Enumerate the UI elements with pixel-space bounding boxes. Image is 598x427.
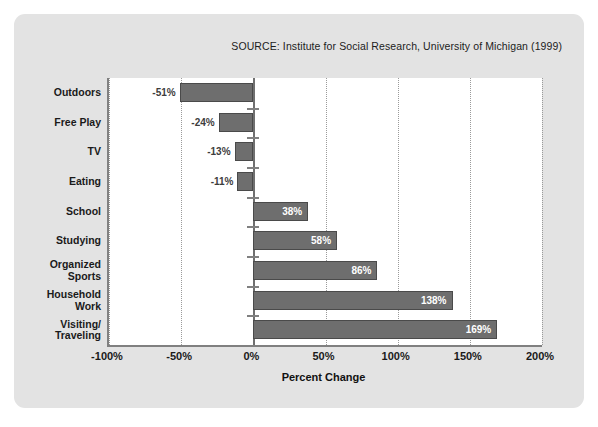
bar-row: -13% <box>109 137 542 167</box>
x-tick-label: 100% <box>382 350 410 362</box>
bar[interactable] <box>219 113 254 132</box>
bar-series: -51%-24%-13%-11%38%58%86%138%169% <box>109 78 542 345</box>
bar-value-label: 38% <box>266 203 302 220</box>
category-label-line: Sports <box>25 271 101 283</box>
category-tick <box>247 197 259 199</box>
category-label: School <box>25 206 101 218</box>
bar[interactable] <box>237 172 253 191</box>
category-label-line: Free Play <box>25 117 101 129</box>
bar-row: 138% <box>109 286 542 316</box>
category-label-line: School <box>25 206 101 218</box>
bar-row: -24% <box>109 108 542 138</box>
category-tick <box>247 108 259 110</box>
bar-value-label: 86% <box>335 262 371 279</box>
category-label: HouseholdWork <box>25 289 101 312</box>
bar-value-label: -13% <box>201 143 231 160</box>
category-label-line: TV <box>25 146 101 158</box>
bar[interactable] <box>235 142 254 161</box>
category-tick <box>247 286 259 288</box>
category-label-line: Eating <box>25 176 101 188</box>
category-label-line: Work <box>25 301 101 313</box>
category-label-line: Outdoors <box>25 87 101 99</box>
category-tick <box>247 256 259 258</box>
x-axis-title: Percent Change <box>107 371 540 383</box>
bar-value-label: 58% <box>295 232 331 249</box>
category-label-line: Household <box>25 289 101 301</box>
bar-row: -51% <box>109 78 542 108</box>
bar-value-label: -11% <box>203 173 233 190</box>
bar-row: -11% <box>109 167 542 197</box>
category-label-line: Studying <box>25 235 101 247</box>
gridline-200 <box>542 78 543 345</box>
category-tick <box>247 315 259 317</box>
category-label: OrganizedSports <box>25 259 101 282</box>
plot-area: -51%-24%-13%-11%38%58%86%138%169% <box>107 78 542 347</box>
bar-value-label: -24% <box>185 114 215 131</box>
category-label: Free Play <box>25 117 101 129</box>
bar[interactable] <box>180 83 254 102</box>
x-tick-label: 0% <box>243 350 259 362</box>
x-tick-label: 150% <box>454 350 482 362</box>
category-axis-labels: OutdoorsFree PlayTVEatingSchoolStudyingO… <box>28 78 104 345</box>
bar-value-label: 169% <box>455 321 491 338</box>
bar-value-label: 138% <box>411 292 447 309</box>
x-axis-tick-labels: -100%-50%0%50%100%150%200% <box>107 350 540 366</box>
chart-card: SOURCE: Institute for Social Research, U… <box>14 14 584 408</box>
category-label: Outdoors <box>25 87 101 99</box>
x-tick-label: 50% <box>312 350 334 362</box>
category-label-line: Traveling <box>25 330 101 342</box>
x-tick-label: 200% <box>526 350 554 362</box>
category-tick <box>247 167 259 169</box>
bar-row: 169% <box>109 315 542 345</box>
x-tick-label: -100% <box>91 350 123 362</box>
bar-value-label: -51% <box>146 84 176 101</box>
category-label: Visiting/Traveling <box>25 319 101 342</box>
bar-row: 58% <box>109 226 542 256</box>
source-note: SOURCE: Institute for Social Research, U… <box>231 40 562 52</box>
category-label: Studying <box>25 235 101 247</box>
bar-row: 38% <box>109 197 542 227</box>
bar-row: 86% <box>109 256 542 286</box>
category-label: TV <box>25 146 101 158</box>
x-tick-label: -50% <box>166 350 192 362</box>
category-label: Eating <box>25 176 101 188</box>
category-tick <box>247 137 259 139</box>
category-tick <box>247 226 259 228</box>
